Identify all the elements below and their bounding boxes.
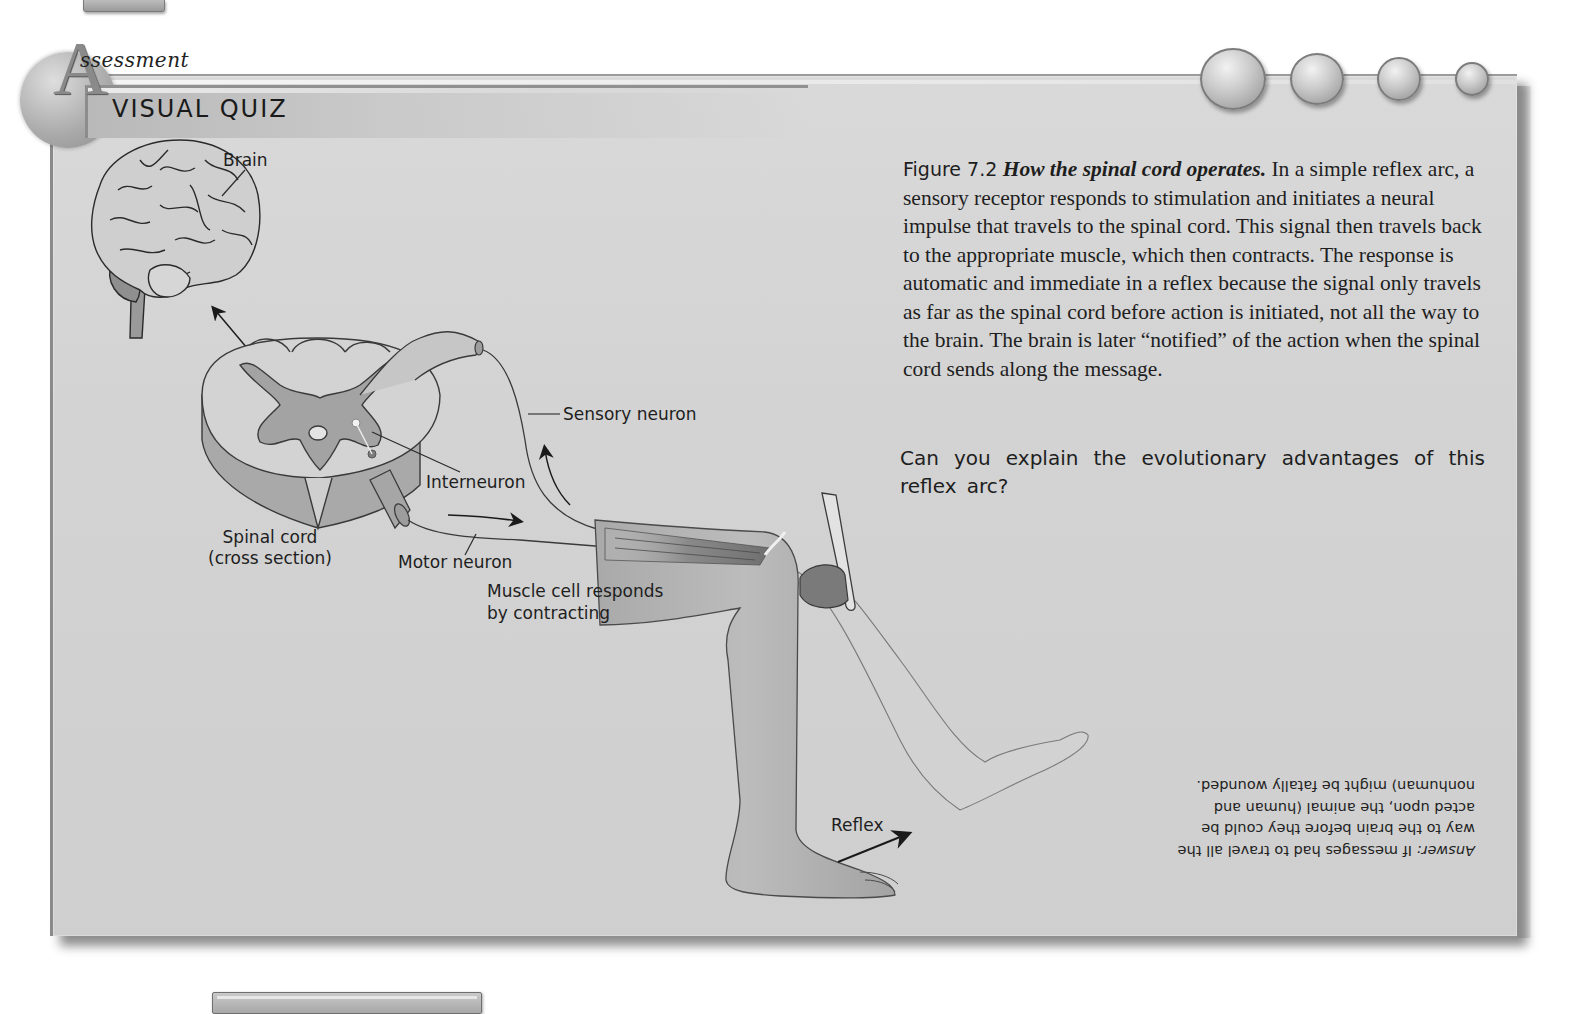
sensory-arrow-icon: [545, 450, 570, 505]
reflex-arrow-icon: [838, 835, 905, 862]
spinal-cord-label-line1: Spinal cord: [205, 527, 335, 548]
reflex-label: Reflex: [831, 815, 883, 835]
figure-body: In a simple reflex arc, a sensory recept…: [903, 157, 1482, 381]
spinal-cord-label-line2: (cross section): [205, 548, 335, 569]
upside-down-answer: Answer: If messages had to travel all th…: [1170, 775, 1475, 861]
quiz-question: Can you explain the evolutionary advanta…: [900, 444, 1485, 500]
muscle-label-line2: by contracting: [487, 602, 663, 624]
answer-label: Answer:: [1417, 843, 1475, 859]
figure-caption: Figure 7.2 How the spinal cord operates.…: [903, 155, 1493, 383]
motor-arrow-icon: [448, 515, 518, 521]
figure-number: Figure 7.2: [903, 158, 997, 180]
brain-label: Brain: [223, 150, 268, 170]
interneuron-label: Interneuron: [426, 472, 525, 492]
bottom-page-tab: [212, 992, 482, 1014]
spinal-cord-label: Spinal cord (cross section): [205, 527, 335, 569]
motor-neuron-label: Motor neuron: [398, 552, 512, 572]
reflex-hammer-head: [800, 565, 848, 608]
muscle-label-line1: Muscle cell responds: [487, 580, 663, 602]
sensory-neuron-path: [483, 350, 760, 548]
muscle-cell-label: Muscle cell responds by contracting: [487, 580, 663, 624]
sensory-neuron-label: Sensory neuron: [563, 404, 697, 424]
figure-title: How the spinal cord operates.: [1003, 157, 1266, 181]
